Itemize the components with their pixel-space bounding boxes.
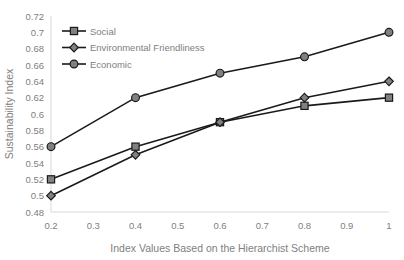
x-axis-tick-labels: 0.20.30.40.50.60.70.80.91: [44, 220, 391, 231]
y-tick-label: 0.6: [31, 109, 44, 120]
series-line: [51, 98, 389, 180]
series-line: [51, 81, 389, 195]
y-tick-label: 0.56: [26, 141, 45, 152]
legend-item-social[interactable]: Social: [62, 26, 116, 37]
legend-item-environmental-friendliness[interactable]: Environmental Friendliness: [62, 42, 205, 53]
legend-item-economic[interactable]: Economic: [62, 59, 132, 70]
y-tick-label: 0.52: [26, 174, 45, 185]
legend-label: Social: [90, 26, 116, 37]
y-tick-label: 0.58: [26, 125, 45, 136]
x-tick-label: 0.9: [340, 220, 353, 231]
series-social: [47, 94, 392, 183]
y-tick-label: 0.5: [31, 190, 44, 201]
legend: SocialEnvironmental FriendlinessEconomic: [62, 26, 205, 70]
data-point: [47, 191, 56, 200]
data-point: [301, 53, 309, 61]
x-tick-label: 0.4: [129, 220, 142, 231]
x-tick-label: 0.6: [213, 220, 226, 231]
legend-marker-circle-icon: [70, 60, 78, 68]
y-tick-label: 0.72: [26, 11, 45, 22]
data-point: [216, 69, 224, 77]
y-axis-title: Sustainability Index: [3, 68, 15, 159]
data-point: [301, 102, 308, 109]
y-tick-label: 0.66: [26, 60, 45, 71]
series-environmental-friendliness: [47, 77, 394, 200]
chart-container: 0.480.50.520.540.560.580.60.620.640.660.…: [0, 0, 404, 260]
y-tick-label: 0.48: [26, 207, 45, 218]
data-point: [385, 77, 394, 86]
legend-label: Environmental Friendliness: [90, 42, 205, 53]
data-point: [132, 143, 139, 150]
data-point: [47, 176, 54, 183]
y-tick-label: 0.62: [26, 92, 45, 103]
line-chart: 0.480.50.520.540.560.580.60.620.640.660.…: [0, 0, 404, 260]
y-tick-label: 0.7: [31, 27, 44, 38]
x-tick-label: 1: [386, 220, 391, 231]
legend-label: Economic: [90, 59, 132, 70]
y-tick-label: 0.64: [26, 76, 45, 87]
legend-marker-square-icon: [70, 27, 77, 34]
data-point: [385, 94, 392, 101]
y-tick-label: 0.68: [26, 43, 45, 54]
data-point: [131, 151, 140, 160]
data-point: [385, 28, 393, 36]
x-tick-label: 0.7: [256, 220, 269, 231]
y-tick-label: 0.54: [26, 158, 45, 169]
legend-marker-diamond-icon: [70, 43, 79, 52]
data-point: [300, 93, 309, 102]
data-point: [132, 94, 140, 102]
y-axis-tick-labels: 0.480.50.520.540.560.580.60.620.640.660.…: [26, 11, 45, 218]
x-tick-label: 0.2: [44, 220, 57, 231]
x-tick-label: 0.5: [171, 220, 184, 231]
x-tick-label: 0.3: [87, 220, 100, 231]
x-tick-label: 0.8: [298, 220, 311, 231]
x-axis-title: Index Values Based on the Hierarchist Sc…: [110, 242, 329, 254]
data-point: [47, 143, 55, 151]
